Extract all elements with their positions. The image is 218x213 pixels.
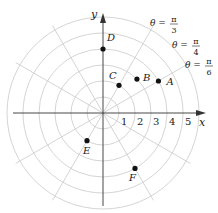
angle-label: θ = π4 (172, 37, 200, 57)
grid-ray (103, 113, 153, 200)
tick-label: 3 (153, 116, 159, 127)
radius-tick-labels: 12345 (121, 116, 191, 127)
svg-text:θ =: θ = (150, 18, 166, 28)
svg-text:π: π (193, 37, 198, 46)
svg-text:3: 3 (171, 26, 176, 35)
grid-ray (53, 113, 103, 200)
point-f: F (128, 166, 138, 184)
svg-text:A: A (165, 76, 173, 87)
y-axis-arrow-icon (100, 13, 106, 23)
angle-label: θ = π6 (185, 57, 213, 77)
svg-text:F: F (128, 172, 137, 183)
point-c: C (109, 70, 122, 88)
svg-text:B: B (142, 72, 150, 83)
grid-ray (53, 26, 103, 113)
svg-text:D: D (106, 32, 115, 43)
svg-text:π: π (171, 15, 176, 24)
grid-ray (16, 113, 103, 163)
svg-text:6: 6 (206, 68, 211, 77)
tick-label: 5 (185, 116, 191, 127)
svg-text:C: C (109, 70, 117, 81)
svg-text:θ =: θ = (172, 40, 188, 50)
tick-label: 2 (137, 116, 143, 127)
svg-text:4: 4 (193, 48, 198, 57)
svg-text:E: E (82, 145, 91, 156)
grid-ray (16, 63, 103, 113)
svg-text:θ =: θ = (185, 60, 201, 70)
tick-label: 4 (169, 116, 175, 127)
grid-ray (103, 113, 190, 163)
tick-label: 1 (121, 116, 127, 127)
y-axis-label: y (90, 8, 98, 21)
point-e: E (82, 138, 91, 156)
point-b: B (134, 72, 150, 83)
x-axis-label: x (199, 116, 206, 129)
svg-text:π: π (206, 57, 211, 66)
polar-coordinate-diagram: x y 12345 θ = π3θ = π4θ = π6 ABCDEF (0, 0, 218, 213)
